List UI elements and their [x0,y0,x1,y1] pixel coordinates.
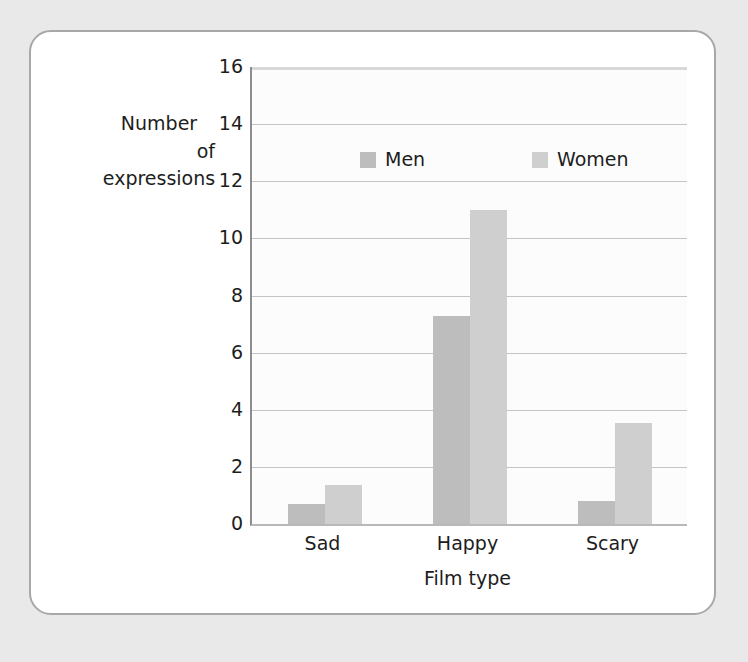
bar-happy-men [433,316,470,525]
bar-sad-women [325,485,362,524]
y-tick-label-0: 0 [199,514,243,533]
legend-swatch-men-icon [360,152,376,168]
bar-scary-women [615,423,652,524]
bar-sad-men [288,504,325,524]
y-axis-tick-labels: 1614121086420 [191,67,243,524]
y-tick-label-12: 12 [199,171,243,190]
y-tick-label-10: 10 [199,228,243,247]
legend-label-men: Men [385,150,425,169]
bar-group-scary [542,67,687,524]
y-tick-label-6: 6 [199,343,243,362]
chart-legend: Men Women [250,150,685,176]
y-tick-label-14: 14 [199,114,243,133]
bar-group-sad [252,67,397,524]
figure-card: Number of expressions 1614121086420 Men … [29,30,716,615]
bar-scary-men [578,501,615,524]
x-axis-title: Film type [250,567,685,589]
y-tick-label-8: 8 [199,286,243,305]
y-tick-label-4: 4 [199,400,243,419]
plot-area [250,67,687,526]
y-tick-label-2: 2 [199,457,243,476]
x-tick-label-sad: Sad [250,532,395,554]
legend-label-women: Women [557,150,629,169]
x-tick-label-scary: Scary [540,532,685,554]
legend-swatch-women-icon [532,152,548,168]
y-tick-label-16: 16 [199,57,243,76]
x-tick-label-happy: Happy [395,532,540,554]
legend-item-women: Women [532,150,629,169]
bar-happy-women [470,210,507,524]
bar-group-happy [397,67,542,524]
bar-chart: Number of expressions 1614121086420 Men … [31,32,718,617]
legend-item-men: Men [360,150,425,169]
